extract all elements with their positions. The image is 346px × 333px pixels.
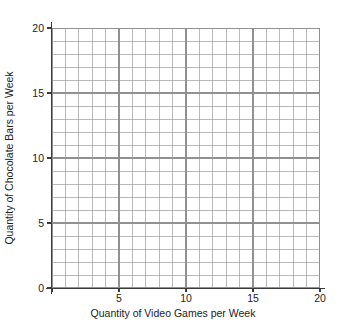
y-tick-mark	[47, 27, 51, 28]
y-tick-label: 10	[18, 152, 44, 164]
chart-figure: 5101520 05101520 Quantity of Video Games…	[0, 0, 346, 333]
plot-area	[52, 28, 320, 288]
x-tick-mark	[51, 288, 52, 292]
grid-lines	[52, 28, 320, 288]
x-tick-label: 10	[171, 292, 201, 304]
y-axis-spine	[51, 22, 52, 294]
y-tick-label: 15	[18, 87, 44, 99]
y-tick-mark	[47, 222, 51, 223]
y-axis-label-wrapper: Quantity of Chocolate Bars per Week	[0, 28, 18, 288]
x-tick-label: 15	[238, 292, 268, 304]
y-axis-label: Quantity of Chocolate Bars per Week	[3, 71, 15, 244]
x-tick-label: 5	[104, 292, 134, 304]
y-tick-mark	[47, 157, 51, 158]
y-tick-label: 20	[18, 22, 44, 34]
y-tick-mark	[47, 92, 51, 93]
x-tick-label: 20	[305, 292, 335, 304]
y-tick-label: 5	[18, 217, 44, 229]
y-tick-label: 0	[18, 282, 44, 294]
y-tick-mark	[47, 287, 51, 288]
x-axis-label: Quantity of Video Games per Week	[0, 307, 346, 319]
